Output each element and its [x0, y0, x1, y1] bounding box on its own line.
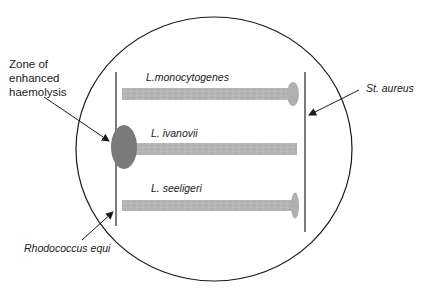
l-seeligeri-streak — [122, 193, 299, 219]
rhodococcus-arrow — [82, 212, 113, 240]
l-monocytogenes-streak — [122, 82, 299, 106]
l-monocytogenes-label: L.monocytogenes — [146, 72, 229, 83]
st-aureus-arrow — [309, 90, 359, 115]
l-ivanovii-streak — [132, 143, 297, 155]
st-aureus-label: St. aureus — [366, 83, 414, 94]
l-ivanovii-label: L. ivanovii — [151, 128, 198, 139]
enhanced-haemolysis-zone — [111, 125, 137, 169]
zone-of-enhanced-haemolysis-label: Zone of enhanced haemolysis — [9, 57, 67, 99]
l-seeligeri-label: L. seeligeri — [151, 183, 202, 194]
rhodococcus-equi-label: Rhodococcus equi — [24, 243, 110, 254]
